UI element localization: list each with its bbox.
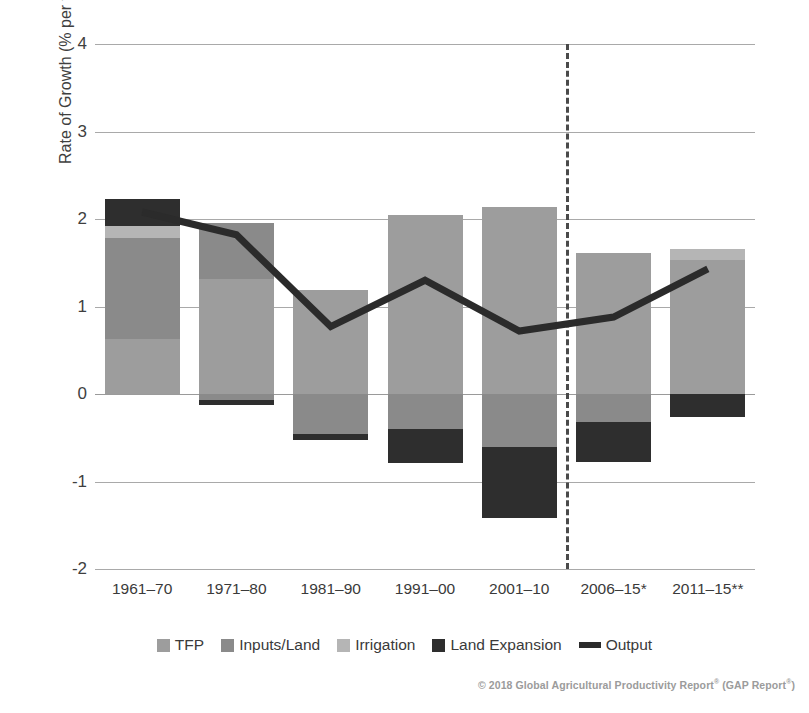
x-axis-label: 2001–10 — [472, 580, 566, 598]
x-axis-label: 2011–15** — [661, 580, 755, 598]
x-axis-label: 1991–00 — [378, 580, 472, 598]
legend-label: TFP — [175, 636, 204, 654]
y-tick-label: 0 — [41, 385, 87, 402]
legend-item[interactable]: Output — [579, 636, 653, 654]
y-axis-title: Rate of Growth (% per year) — [57, 0, 75, 164]
y-tick-label: -2 — [41, 560, 87, 577]
legend-item[interactable]: Land Expansion — [432, 636, 561, 654]
x-axis-label: 1971–80 — [189, 580, 283, 598]
legend-item[interactable]: Inputs/Land — [221, 636, 320, 654]
legend-swatch-icon — [221, 639, 234, 652]
legend-swatch-icon — [337, 639, 350, 652]
legend-label: Irrigation — [355, 636, 415, 654]
legend-label: Land Expansion — [450, 636, 561, 654]
gridline--2 — [95, 569, 755, 570]
copyright-footer: © 2018 Global Agricultural Productivity … — [478, 678, 795, 691]
x-axis-label: 2006–15* — [566, 580, 660, 598]
output-line-overlay — [95, 44, 755, 569]
x-axis-labels: 1961–701971–801981–901991–002001–102006–… — [95, 580, 755, 606]
x-axis-label: 1981–90 — [284, 580, 378, 598]
footer-text-2: (GAP Report — [719, 679, 786, 691]
legend-swatch-icon — [157, 639, 170, 652]
legend-swatch-icon — [432, 639, 445, 652]
legend-label: Output — [606, 636, 653, 654]
y-tick-label: 2 — [41, 210, 87, 227]
footer-text-3: ) — [791, 679, 795, 691]
chart-container: Rate of Growth (% per year) 43210-1-2 19… — [0, 0, 809, 713]
output-line — [142, 212, 708, 331]
chart-legend: TFPInputs/LandIrrigationLand ExpansionOu… — [0, 636, 809, 654]
legend-label: Inputs/Land — [239, 636, 320, 654]
legend-swatch-icon — [579, 642, 601, 648]
y-tick-label: 1 — [41, 298, 87, 315]
x-axis-label: 1961–70 — [95, 580, 189, 598]
legend-item[interactable]: Irrigation — [337, 636, 415, 654]
y-tick-label: -1 — [41, 473, 87, 490]
plot-area: Rate of Growth (% per year) — [95, 44, 755, 569]
legend-item[interactable]: TFP — [157, 636, 204, 654]
footer-text-1: © 2018 Global Agricultural Productivity … — [478, 679, 714, 691]
